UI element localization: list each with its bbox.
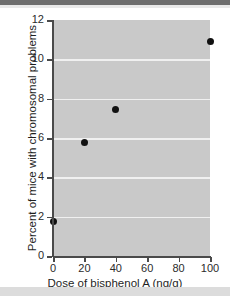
y-tick-4 bbox=[47, 177, 52, 179]
x-tick-label-60: 60 bbox=[130, 263, 164, 274]
page-top-band-fade bbox=[0, 5, 230, 8]
gridline-y-10 bbox=[53, 59, 210, 61]
x-tick-label-100: 100 bbox=[193, 263, 227, 274]
x-tick-label-80: 80 bbox=[162, 263, 196, 274]
data-point bbox=[112, 106, 119, 113]
gridline-y-4 bbox=[53, 177, 210, 179]
gridline-y-8 bbox=[53, 99, 210, 101]
y-tick-2 bbox=[47, 217, 52, 219]
x-tick-label-0: 0 bbox=[36, 263, 70, 274]
y-axis-line bbox=[52, 20, 54, 257]
gridline-y-6 bbox=[53, 138, 210, 140]
y-axis-title: Percent of mice with chromosomal problem… bbox=[26, 13, 38, 263]
page-bottom-band bbox=[0, 287, 230, 296]
x-tick-label-20: 20 bbox=[67, 263, 101, 274]
gridline-y-2 bbox=[53, 217, 210, 219]
y-tick-6 bbox=[47, 138, 52, 140]
data-point bbox=[207, 38, 214, 45]
y-tick-12 bbox=[47, 20, 52, 22]
y-tick-10 bbox=[47, 59, 52, 61]
data-point bbox=[81, 139, 88, 146]
y-tick-0 bbox=[47, 256, 52, 258]
x-axis-line bbox=[53, 256, 211, 258]
x-tick-label-40: 40 bbox=[99, 263, 133, 274]
chart-figure: 024681012 020406080100 Dose of bisphenol… bbox=[0, 0, 230, 296]
plot-area bbox=[53, 20, 210, 256]
y-tick-8 bbox=[47, 99, 52, 101]
